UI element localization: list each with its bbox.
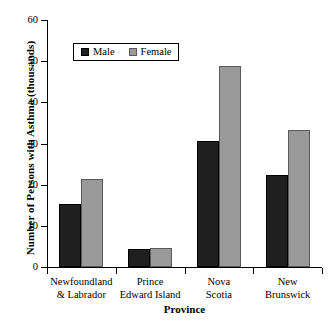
y-axis-tick-label: 50 xyxy=(0,56,38,66)
bar-male-2 xyxy=(128,249,150,267)
legend-label-female: Female xyxy=(141,46,172,57)
x-axis-category-label: NewBrunswick xyxy=(247,276,328,301)
legend-item-female: Female xyxy=(129,46,172,57)
bar-female-3 xyxy=(219,66,241,267)
bar-male-3 xyxy=(197,141,219,267)
y-axis-tick-label: 30 xyxy=(0,139,38,149)
bar-male-4 xyxy=(266,175,288,267)
x-axis-category-label-line: Brunswick xyxy=(247,289,328,302)
asthma-by-province-bar-chart: Number of Persons with Asthma (thousands… xyxy=(0,0,329,322)
x-axis-tick xyxy=(322,268,323,274)
bar-female-2 xyxy=(150,248,172,267)
legend-swatch-female-icon xyxy=(129,48,137,56)
y-axis-tick-label: 10 xyxy=(0,221,38,231)
bar-male-1 xyxy=(59,204,81,267)
bar-female-1 xyxy=(81,179,103,267)
legend-item-male: Male xyxy=(81,46,115,57)
x-axis-tick xyxy=(253,268,254,274)
y-axis-tick-label: 40 xyxy=(0,97,38,107)
x-axis-tick xyxy=(116,268,117,274)
legend-label-male: Male xyxy=(93,46,115,57)
x-axis-title: Province xyxy=(47,303,322,315)
x-axis-tick xyxy=(47,268,48,274)
legend-swatch-male-icon xyxy=(81,48,89,56)
x-axis-tick xyxy=(185,268,186,274)
bar-female-4 xyxy=(288,130,310,267)
x-axis-category-label-line: New xyxy=(247,276,328,289)
chart-legend: Male Female xyxy=(73,43,179,61)
y-axis-tick-label: 60 xyxy=(0,15,38,25)
y-axis-tick-label: 0 xyxy=(0,262,38,272)
y-axis-tick-label: 20 xyxy=(0,180,38,190)
